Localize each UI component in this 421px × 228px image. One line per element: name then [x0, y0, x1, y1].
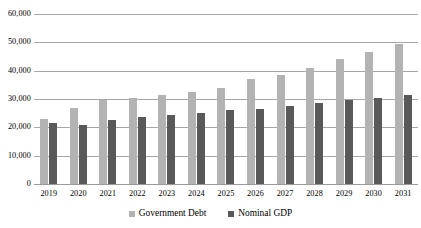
bar-nominal-gdp-2031[interactable] — [404, 95, 412, 184]
x-tick-label-2031: 2031 — [388, 186, 418, 202]
bar-government-debt-2019[interactable] — [40, 119, 48, 184]
bar-nominal-gdp-2025[interactable] — [226, 110, 234, 184]
square-marker-dark-icon — [228, 211, 234, 217]
legend-item-nominal-gdp[interactable]: Nominal GDP — [228, 209, 292, 218]
bar-group-2021 — [93, 14, 123, 184]
legend-item-government-debt[interactable]: Government Debt — [129, 209, 206, 218]
y-tick-label: 0 — [27, 180, 31, 188]
bar-nominal-gdp-2023[interactable] — [167, 115, 175, 184]
bar-nominal-gdp-2029[interactable] — [345, 100, 353, 184]
bar-government-debt-2031[interactable] — [395, 44, 403, 184]
bar-government-debt-2024[interactable] — [188, 92, 196, 184]
x-tick-label-2026: 2026 — [241, 186, 271, 202]
bar-government-debt-2022[interactable] — [129, 98, 137, 184]
bar-nominal-gdp-2027[interactable] — [286, 106, 294, 184]
y-tick-label: 30,000 — [8, 95, 31, 103]
bars-layer — [34, 14, 418, 184]
x-tick-label-2027: 2027 — [270, 186, 300, 202]
x-tick-label-2020: 2020 — [64, 186, 94, 202]
gridline-0 — [34, 184, 418, 185]
bar-nominal-gdp-2026[interactable] — [256, 109, 264, 184]
y-tick-label: 50,000 — [8, 38, 31, 46]
x-tick-label-2019: 2019 — [34, 186, 64, 202]
bar-group-2020 — [64, 14, 94, 184]
legend-label: Government Debt — [139, 209, 206, 218]
bar-group-2027 — [270, 14, 300, 184]
y-tick-label: 60,000 — [8, 10, 31, 18]
square-marker-light-icon — [129, 211, 135, 217]
bar-government-debt-2021[interactable] — [99, 100, 107, 184]
bar-government-debt-2025[interactable] — [217, 88, 225, 184]
bar-nominal-gdp-2019[interactable] — [49, 123, 57, 184]
bar-nominal-gdp-2021[interactable] — [108, 120, 116, 184]
bar-group-2023 — [152, 14, 182, 184]
bar-government-debt-2020[interactable] — [70, 108, 78, 185]
y-tick-label: 10,000 — [8, 152, 31, 160]
bar-group-2025 — [211, 14, 241, 184]
x-axis: 2019202020212022202320242025202620272028… — [34, 186, 418, 202]
bar-government-debt-2027[interactable] — [277, 75, 285, 184]
bar-chart: 60,00050,00040,00030,00020,00010,0000 20… — [0, 0, 421, 228]
bar-nominal-gdp-2028[interactable] — [315, 103, 323, 184]
y-axis: 60,00050,00040,00030,00020,00010,0000 — [0, 0, 31, 228]
bar-government-debt-2026[interactable] — [247, 79, 255, 184]
x-tick-label-2021: 2021 — [93, 186, 123, 202]
x-tick-label-2028: 2028 — [300, 186, 330, 202]
y-tick-label: 20,000 — [8, 123, 31, 131]
bar-government-debt-2030[interactable] — [365, 52, 373, 184]
bar-government-debt-2029[interactable] — [336, 59, 344, 184]
bar-government-debt-2028[interactable] — [306, 68, 314, 184]
bar-nominal-gdp-2030[interactable] — [374, 98, 382, 184]
chart-legend: Government DebtNominal GDP — [0, 206, 421, 222]
x-tick-label-2024: 2024 — [182, 186, 212, 202]
bar-group-2030 — [359, 14, 389, 184]
bar-nominal-gdp-2022[interactable] — [138, 117, 146, 184]
bar-group-2024 — [182, 14, 212, 184]
bar-group-2028 — [300, 14, 330, 184]
legend-label: Nominal GDP — [238, 209, 292, 218]
y-tick-label: 40,000 — [8, 67, 31, 75]
bar-group-2029 — [329, 14, 359, 184]
bar-group-2022 — [123, 14, 153, 184]
bar-nominal-gdp-2020[interactable] — [79, 125, 87, 185]
bar-group-2026 — [241, 14, 271, 184]
x-tick-label-2030: 2030 — [359, 186, 389, 202]
x-tick-label-2025: 2025 — [211, 186, 241, 202]
bar-government-debt-2023[interactable] — [158, 95, 166, 184]
x-tick-label-2023: 2023 — [152, 186, 182, 202]
bar-group-2031 — [388, 14, 418, 184]
bar-nominal-gdp-2024[interactable] — [197, 113, 205, 184]
x-tick-label-2029: 2029 — [329, 186, 359, 202]
bar-group-2019 — [34, 14, 64, 184]
x-tick-label-2022: 2022 — [123, 186, 153, 202]
